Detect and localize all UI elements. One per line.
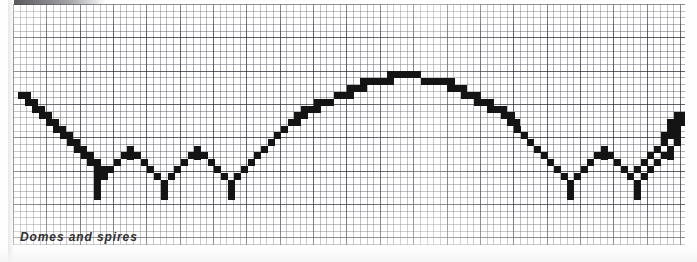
waveform-block [527, 139, 534, 146]
waveform-block [654, 146, 661, 153]
waveform-block [661, 139, 668, 146]
waveform-block [647, 166, 654, 173]
waveform-block [208, 159, 215, 166]
waveform-block [94, 186, 101, 200]
waveform-block [547, 159, 554, 166]
waveform-block [634, 186, 641, 200]
waveform-block [581, 166, 588, 173]
waveform-block [268, 139, 275, 146]
waveform-block [134, 152, 141, 159]
waveform-block [627, 173, 634, 180]
waveform-block [667, 119, 674, 126]
waveform-block [587, 159, 594, 166]
waveform-block [141, 159, 148, 166]
waveform-block [541, 152, 548, 159]
waveform-block [114, 159, 121, 166]
waveform-block [674, 132, 681, 139]
waveform-block [60, 132, 73, 139]
waveform-block [281, 126, 288, 133]
waveform-block [447, 85, 467, 92]
waveform-block [94, 166, 108, 173]
waveform-block [621, 166, 628, 173]
waveform-block [201, 152, 208, 159]
waveform-block [514, 126, 521, 133]
waveform-block [228, 186, 235, 200]
waveform-block [641, 173, 648, 180]
waveform-block [614, 159, 621, 166]
waveform-block [314, 99, 334, 106]
waveform-block [294, 112, 308, 119]
waveform-block [261, 146, 268, 153]
waveform-plot [13, 4, 685, 245]
waveform-block [25, 99, 38, 106]
waveform-block [254, 152, 261, 159]
waveform-block [274, 132, 281, 139]
waveform-block [360, 78, 394, 85]
waveform-block [634, 166, 641, 173]
waveform-block [194, 146, 201, 160]
waveform-block [521, 132, 528, 139]
page-edge-shadow-bottom [0, 248, 697, 262]
waveform-block [667, 146, 674, 160]
waveform-block [147, 166, 154, 173]
waveform-block [607, 152, 614, 159]
waveform-block [81, 152, 94, 159]
waveform-block [94, 173, 101, 180]
waveform-block [101, 173, 108, 180]
waveform-block [39, 112, 52, 119]
waveform-block [667, 126, 681, 133]
waveform-block [647, 152, 654, 159]
waveform-block [674, 112, 685, 119]
waveform-block [67, 139, 80, 146]
waveform-block [561, 173, 568, 180]
waveform-block [507, 119, 520, 126]
waveform-block [474, 99, 494, 106]
waveform-block [241, 166, 248, 173]
waveform-block [221, 173, 228, 180]
waveform-block [46, 119, 59, 126]
waveform-block [347, 85, 367, 92]
waveform-block [168, 173, 175, 180]
waveform-block [214, 166, 221, 173]
waveform-block [127, 146, 134, 160]
waveform-block [18, 92, 31, 99]
waveform-block [574, 173, 581, 180]
waveform-block [674, 139, 681, 146]
waveform-block [661, 132, 675, 139]
waveform-block [234, 173, 241, 180]
waveform-block [534, 146, 541, 153]
waveform-block [154, 173, 161, 180]
waveform-block [641, 159, 648, 166]
waveform-block [161, 186, 168, 200]
waveform-block [181, 159, 188, 166]
waveform-block [594, 152, 601, 159]
figure-caption: Domes and spires [20, 230, 138, 244]
waveform-block [87, 159, 101, 166]
waveform-block [248, 159, 255, 166]
waveform-block [107, 166, 114, 173]
waveform-block [174, 166, 181, 173]
waveform-block [387, 71, 421, 78]
waveform-block [554, 166, 561, 173]
waveform-block [461, 92, 481, 99]
waveform-block [567, 186, 574, 200]
waveform-block [334, 92, 354, 99]
waveform-block [501, 112, 515, 119]
waveform-block [288, 119, 301, 126]
figure-page: Domes and spires [0, 0, 697, 262]
waveform-block [674, 119, 685, 126]
waveform-block [301, 106, 321, 113]
waveform-block [654, 159, 661, 166]
waveform-block [421, 78, 455, 85]
